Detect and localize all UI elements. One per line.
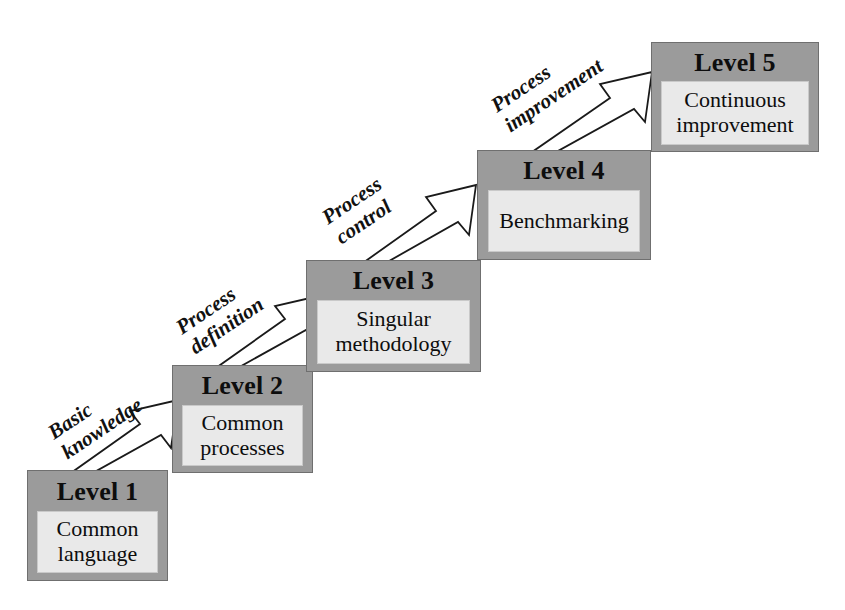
level-1-title: Level 1 (37, 476, 158, 511)
level-2-title: Level 2 (182, 371, 303, 405)
level-1-desc-line-2: language (58, 542, 137, 567)
level-4-title: Level 4 (488, 156, 640, 190)
level-4-desc-line-1: Benchmarking (499, 209, 629, 234)
level-box-5[interactable]: Level 5 Continuous improvement (651, 42, 819, 152)
level-2-panel: Common processes (182, 405, 303, 466)
level-5-desc-line-1: Continuous (684, 88, 785, 113)
level-2-desc-line-2: processes (200, 436, 284, 461)
level-box-1[interactable]: Level 1 Common language (27, 470, 168, 581)
level-3-title: Level 3 (317, 266, 470, 300)
level-2-desc-line-1: Common (202, 411, 284, 436)
maturity-model-diagram: Basic knowledge Process definition Proce… (0, 0, 845, 610)
level-box-2[interactable]: Level 2 Common processes (172, 365, 313, 473)
level-1-desc-line-1: Common (57, 517, 139, 542)
level-1-panel: Common language (37, 511, 158, 573)
level-4-panel: Benchmarking (488, 190, 640, 252)
level-3-desc-line-2: methodology (335, 332, 451, 357)
level-box-4[interactable]: Level 4 Benchmarking (477, 150, 651, 260)
level-5-panel: Continuous improvement (661, 81, 809, 145)
level-5-desc-line-2: improvement (676, 113, 793, 138)
level-5-title: Level 5 (661, 48, 809, 81)
level-box-3[interactable]: Level 3 Singular methodology (306, 260, 481, 372)
level-3-panel: Singular methodology (317, 300, 470, 364)
level-3-desc-line-1: Singular (356, 307, 431, 332)
